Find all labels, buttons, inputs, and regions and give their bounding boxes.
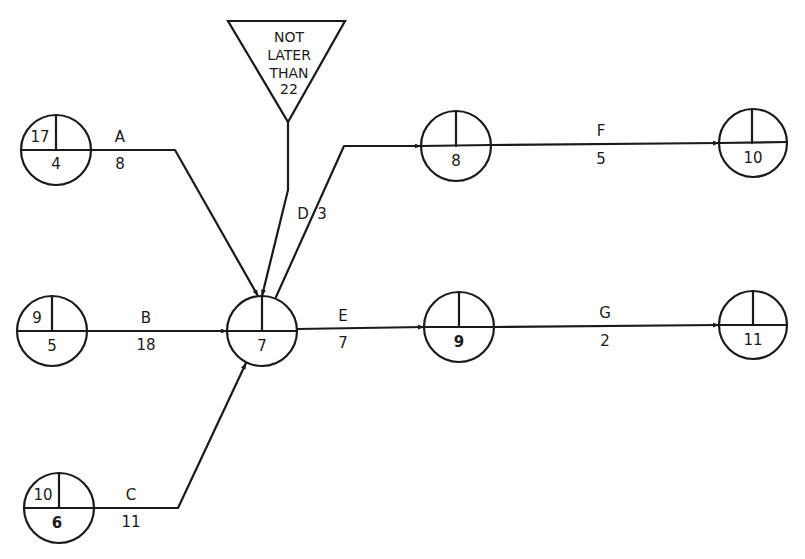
constraint-connector [262,122,288,296]
activity-d-arrow: D 3 [276,146,421,297]
activity-b-duration: 18 [136,336,155,354]
node-8-number: 8 [451,152,461,170]
node-9: 9 [424,292,494,362]
activity-d-duration: 3 [317,205,327,223]
node-6: 10 6 [24,473,94,543]
activity-a-duration: 8 [115,155,125,173]
constraint-line-2: LATER [267,47,311,63]
node-5-early-time: 9 [32,309,42,327]
node-7-number: 7 [257,337,267,355]
node-5-number: 5 [47,337,57,355]
node-4-early-time: 17 [30,128,49,146]
activity-f-label: F [597,122,606,140]
node-11: 11 [719,291,787,359]
constraint-line-4: 22 [280,81,298,97]
activity-b-arrow: B 18 [87,309,227,354]
node-8: 8 [421,111,491,181]
node-10-number: 10 [743,149,762,167]
constraint-triangle: NOT LATER THAN 22 [228,21,345,122]
activity-d-label: D [297,205,309,223]
activity-b-label: B [141,309,151,327]
node-10: 10 [719,109,787,177]
node-6-number: 6 [52,514,62,532]
activity-e-duration: 7 [338,334,348,352]
constraint-line-3: THAN [268,65,308,81]
activity-c-arrow: C 11 [94,363,246,531]
node-7: 7 [227,296,297,366]
activity-e-arrow: E 7 [297,307,424,352]
activity-g-duration: 2 [600,332,610,350]
node-5: 9 5 [17,296,87,366]
activity-c-duration: 11 [121,513,140,531]
node-11-number: 11 [743,331,762,349]
activity-c-label: C [126,486,136,504]
activity-a-arrow: A 8 [91,128,258,297]
activity-g-arrow: G 2 [494,304,719,350]
node-9-number: 9 [454,333,464,351]
activity-f-duration: 5 [596,150,606,168]
constraint-line-1: NOT [274,29,304,45]
activity-e-label: E [338,307,347,325]
node-4: 17 4 [21,115,91,185]
activity-f-arrow: F 5 [491,122,719,168]
node-4-number: 4 [51,155,61,173]
activity-g-label: G [599,304,611,322]
node-6-early-time: 10 [33,486,52,504]
activity-a-label: A [115,128,126,146]
network-diagram: A 8 B 18 C 11 D 3 E 7 F 5 G 2 [0,0,805,559]
